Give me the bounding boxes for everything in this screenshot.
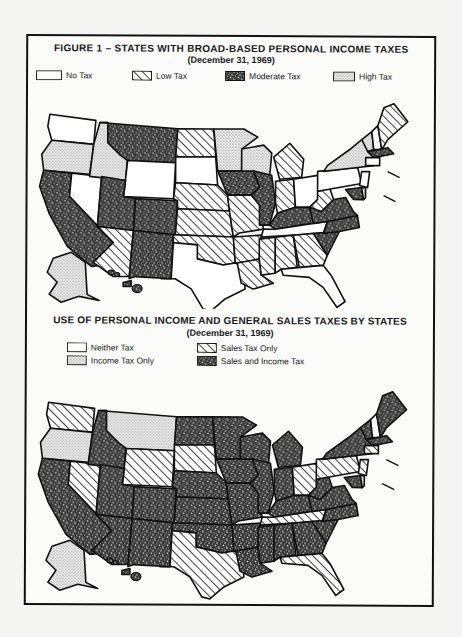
legend-swatch-moderate-tax xyxy=(225,71,245,81)
hawaii-island xyxy=(132,285,142,293)
state-ks xyxy=(174,497,232,525)
state-mi xyxy=(274,143,304,179)
state-ct xyxy=(364,446,378,454)
state-mi xyxy=(272,431,302,467)
state-ms xyxy=(259,237,275,275)
state-me xyxy=(376,392,406,438)
legend1-low: Low Tax xyxy=(132,71,187,81)
legend1-high: High Tax xyxy=(333,71,392,81)
state-sd xyxy=(174,445,216,473)
figure2-title: USE OF PERSONAL INCOME AND GENERAL SALES… xyxy=(27,314,433,327)
state-sd xyxy=(176,157,218,185)
state-ct xyxy=(366,158,380,166)
state-or xyxy=(40,428,92,462)
hawaii-island xyxy=(108,270,114,275)
state-fl xyxy=(281,265,345,307)
legend-label: No Tax xyxy=(66,70,92,80)
state-ms xyxy=(258,525,274,563)
state-ne xyxy=(172,471,228,499)
hawaii-island xyxy=(131,573,141,581)
legend-label: Moderate Tax xyxy=(249,71,300,81)
figure1-title: FIGURE 1 – STATES WITH BROAD-BASED PERSO… xyxy=(28,42,434,55)
state-nd xyxy=(176,129,216,157)
state-wy xyxy=(124,161,176,199)
legend1-none: No Tax xyxy=(36,70,92,80)
state-md xyxy=(344,476,362,488)
map-income-tax-levels xyxy=(27,82,434,310)
legend-label: Low Tax xyxy=(156,71,187,81)
legend1-moderate: Moderate Tax xyxy=(225,71,300,81)
state-nj xyxy=(360,172,370,188)
legend2-sales: Sales Tax Only xyxy=(197,343,278,353)
legend-swatch-no-tax xyxy=(36,70,62,80)
state-co xyxy=(132,487,176,523)
state-me xyxy=(378,104,408,150)
pointer-arrow xyxy=(382,484,394,490)
figure-frame: FIGURE 1 – STATES WITH BROAD-BASED PERSO… xyxy=(24,34,436,607)
legend-label: Sales Tax Only xyxy=(221,343,278,353)
figure2-subtitle: (December 31, 1969) xyxy=(27,327,433,339)
hawaii-island xyxy=(107,558,113,563)
pointer-arrow xyxy=(388,172,400,178)
legend-label: High Tax xyxy=(359,72,392,82)
state-wy xyxy=(122,449,174,487)
figure1-subtitle: (December 31, 1969) xyxy=(28,54,434,66)
state-nm xyxy=(128,519,172,567)
legend-swatch-high-tax xyxy=(333,71,355,81)
state-nm xyxy=(129,231,173,279)
state-md xyxy=(346,188,364,200)
state-ne xyxy=(173,183,229,211)
state-hi xyxy=(122,569,130,575)
map-income-sales-tax-use xyxy=(26,362,433,604)
pointer-arrow xyxy=(386,460,398,466)
pointer-arrow xyxy=(384,196,396,202)
state-or xyxy=(42,140,94,174)
legend2-none: Neither Tax xyxy=(67,342,134,352)
hawaii-island xyxy=(115,272,120,276)
state-ks xyxy=(175,209,233,237)
legend-swatch-neither-tax xyxy=(67,342,87,352)
legend-swatch-low-tax xyxy=(132,71,152,81)
state-fl xyxy=(280,553,344,595)
legend-swatch-sales-only xyxy=(197,343,217,353)
state-co xyxy=(133,199,177,235)
hawaii-island xyxy=(113,560,118,564)
legend-label: Neither Tax xyxy=(91,342,134,352)
state-nj xyxy=(358,460,368,476)
state-hi xyxy=(123,281,131,287)
state-nd xyxy=(174,417,214,445)
